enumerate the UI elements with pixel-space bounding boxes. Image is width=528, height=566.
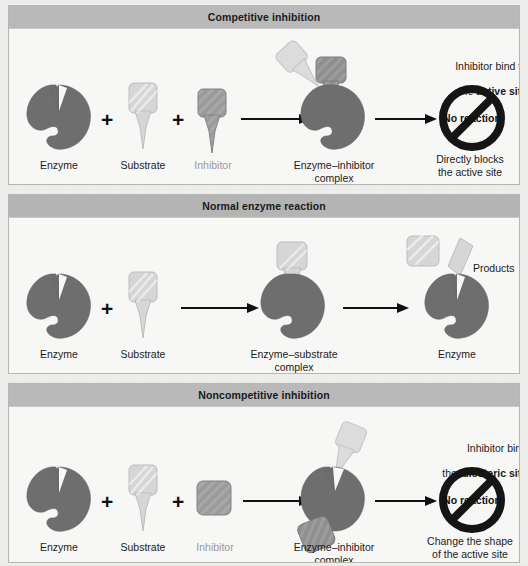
substrate-shape bbox=[123, 270, 163, 342]
label-substrate: Substrate bbox=[103, 541, 183, 554]
enzyme-substrate-complex-shape bbox=[257, 270, 329, 342]
panel-header-noncompetitive: Noncompetitive inhibition bbox=[9, 384, 519, 407]
plus-sign-2: + bbox=[172, 109, 184, 130]
panel-header-competitive: Competitive inhibition bbox=[9, 6, 519, 29]
reaction-arrow-1 bbox=[181, 302, 259, 314]
label-enzyme-substrate-complex: Enzyme–substrate complex bbox=[241, 348, 347, 373]
panel-title: Competitive inhibition bbox=[208, 11, 320, 23]
plus-sign-1: + bbox=[101, 491, 113, 512]
reaction-arrow-2 bbox=[375, 495, 437, 507]
product-square-shape bbox=[405, 234, 441, 268]
label-inhibitor: Inhibitor bbox=[175, 541, 255, 554]
label-enzyme: Enzyme bbox=[19, 541, 99, 554]
plus-sign-2: + bbox=[172, 491, 184, 512]
enzyme-shape bbox=[23, 463, 95, 535]
enzyme-released-shape bbox=[421, 270, 493, 342]
panel-noncompetitive-inhibition: Noncompetitive inhibition Enzyme + Subst… bbox=[8, 383, 520, 563]
label-substrate: Substrate bbox=[103, 348, 183, 361]
inhibitor-shape bbox=[193, 87, 233, 157]
panel-title: Normal enzyme reaction bbox=[202, 200, 326, 212]
panel-body-normal: Enzyme + Substrate bbox=[9, 218, 519, 374]
label-enzyme: Enzyme bbox=[19, 159, 99, 172]
result-caption-competitive: Directly blocks the active site bbox=[413, 153, 520, 178]
panel-normal-enzyme-reaction: Normal enzyme reaction Enzyme + Substrat… bbox=[8, 194, 520, 374]
panel-body-noncompetitive: Enzyme + Substrate + bbox=[9, 407, 519, 563]
reaction-arrow-2 bbox=[343, 302, 409, 314]
result-line-1: Inhibitor bind to bbox=[455, 60, 520, 72]
substrate-shape bbox=[123, 81, 163, 153]
no-reaction-symbol: No reaction bbox=[439, 467, 505, 533]
label-enzyme-inhibitor-complex: Enzyme–inhibitor complex bbox=[281, 159, 387, 184]
enzyme-shape bbox=[23, 270, 95, 342]
no-reaction-symbol: No reaction bbox=[439, 85, 505, 151]
panel-header-normal: Normal enzyme reaction bbox=[9, 195, 519, 218]
enzyme-shape bbox=[23, 81, 95, 153]
label-enzyme-out: Enzyme bbox=[417, 348, 497, 361]
label-enzyme-inhibitor-complex: Enzyme–inhibitor complex bbox=[281, 541, 387, 563]
panel-body-competitive: Enzyme + Substrate + bbox=[9, 29, 519, 185]
substrate-shape bbox=[123, 463, 163, 535]
label-enzyme: Enzyme bbox=[19, 348, 99, 361]
panel-competitive-inhibition: Competitive inhibition Enzyme + Substrat… bbox=[8, 5, 520, 185]
inhibitor-shape bbox=[195, 479, 235, 519]
enzyme-inhibitor-complex-shape bbox=[297, 81, 369, 153]
label-substrate: Substrate bbox=[103, 159, 183, 172]
label-inhibitor: Inhibitor bbox=[173, 159, 253, 172]
reaction-arrow-2 bbox=[375, 113, 437, 125]
panel-title: Noncompetitive inhibition bbox=[198, 389, 329, 401]
result-caption-noncompetitive: Change the shape of the active site bbox=[411, 535, 520, 560]
plus-sign-1: + bbox=[101, 109, 113, 130]
plus-sign-1: + bbox=[101, 298, 113, 319]
result-line-1: Inhibitor bind bbox=[467, 442, 520, 454]
